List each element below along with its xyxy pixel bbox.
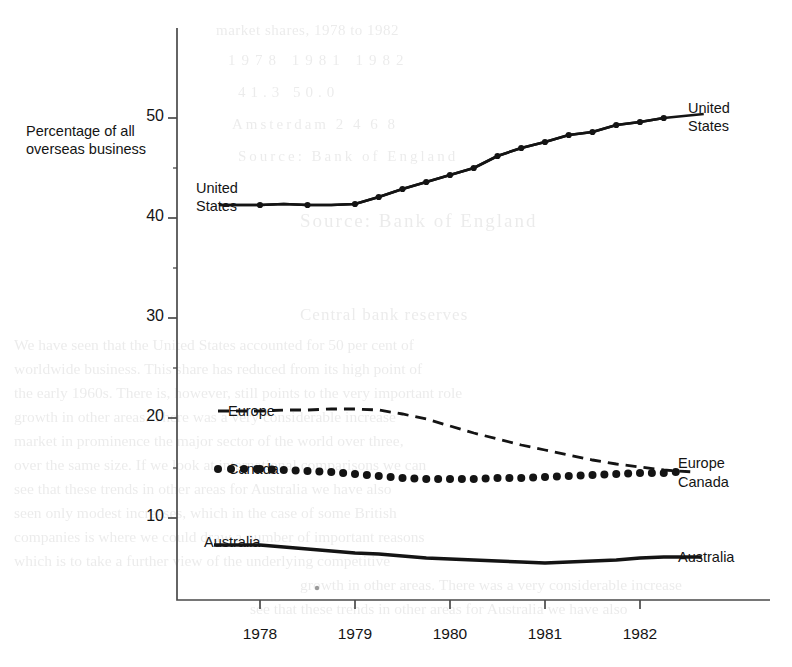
series-canada (214, 465, 680, 483)
series-united-states (220, 114, 704, 208)
series-europe (218, 409, 694, 472)
series-layer (214, 114, 704, 590)
plot-area (0, 0, 792, 667)
scan-speck (315, 586, 319, 590)
line-chart: Percentage of all overseas business 50 4… (0, 0, 792, 667)
series-australia (214, 545, 702, 563)
